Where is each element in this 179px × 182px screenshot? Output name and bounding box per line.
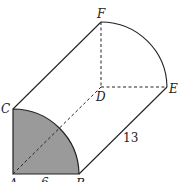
label-C: C (1, 102, 10, 116)
arc-FE (101, 22, 167, 87)
label-F: F (96, 7, 106, 21)
quarter-cylinder-diagram: F C D E 13 A 6 B (0, 0, 179, 182)
label-B: B (75, 177, 85, 182)
label-length-13: 13 (123, 131, 138, 145)
label-A: A (8, 177, 18, 182)
label-radius-6: 6 (41, 176, 49, 182)
label-E: E (168, 82, 178, 96)
label-D: D (95, 90, 106, 104)
edge-CF (13, 22, 101, 109)
